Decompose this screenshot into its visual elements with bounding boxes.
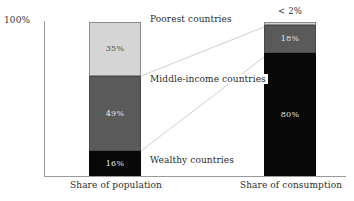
segment-population-wealthy[interactable]: 16% xyxy=(89,151,141,176)
annotation-less-than-2-percent: < 2% xyxy=(264,6,316,16)
category-label-share-of-population: Share of population xyxy=(66,180,166,190)
series-label-poorest-countries: Poorest countries xyxy=(148,14,234,24)
segment-label-population-middle-income: 49% xyxy=(106,109,124,118)
series-label-middle-income-countries: Middle-income countries xyxy=(148,74,268,84)
segment-label-consumption-middle-income: 18% xyxy=(281,34,299,43)
stacked-bar-chart: 100% 35% 49% 16% < 2% < 2% 18% 80% Poore… xyxy=(0,0,354,201)
bar-share-of-population[interactable]: 35% 49% 16% xyxy=(89,22,141,176)
segment-population-middle-income[interactable]: 49% xyxy=(89,76,141,151)
y-axis-tick-100: 100% xyxy=(4,15,30,25)
category-label-share-of-consumption: Share of consumption xyxy=(238,180,344,190)
segment-label-consumption-wealthy: 80% xyxy=(281,110,299,119)
series-label-wealthy-countries: Wealthy countries xyxy=(148,155,236,165)
segment-label-population-poorest: 35% xyxy=(106,44,124,53)
segment-population-poorest[interactable]: 35% xyxy=(89,22,141,76)
x-axis-line xyxy=(44,176,346,177)
bar-share-of-consumption[interactable]: < 2% 18% 80% xyxy=(264,22,316,176)
segment-consumption-wealthy[interactable]: 80% xyxy=(264,53,316,176)
segment-label-population-wealthy: 16% xyxy=(106,159,124,168)
segment-consumption-middle-income[interactable]: 18% xyxy=(264,25,316,53)
y-axis-line xyxy=(44,21,45,176)
